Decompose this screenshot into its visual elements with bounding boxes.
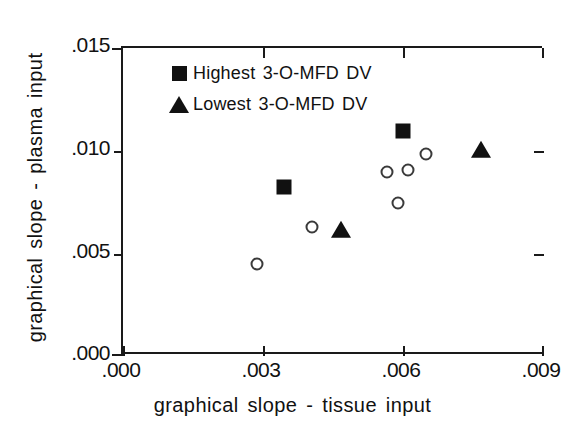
y-tick-right-005 — [534, 254, 544, 256]
y-tick-right-010 — [534, 151, 544, 153]
filled-triangle-icon — [165, 96, 193, 113]
x-tick-003 — [263, 346, 265, 356]
y-tick-005 — [114, 254, 123, 256]
x-tick-label-009: .009 — [501, 358, 581, 382]
x-tick-006 — [403, 346, 405, 356]
x-tick-label-003: .003 — [221, 358, 301, 382]
x-tick-top-009 — [542, 48, 544, 58]
data-point-circle — [250, 258, 263, 271]
data-point-circle — [381, 166, 394, 179]
caption-strip — [0, 432, 585, 445]
legend: Highest 3-O-MFD DV Lowest 3-O-MFD DV — [165, 60, 372, 122]
y-tick-015 — [112, 48, 123, 50]
x-tick-009 — [542, 346, 544, 356]
x-tick-label-006: .006 — [361, 358, 441, 382]
y-tick-label-010: .010 — [0, 136, 110, 160]
x-tick-top-006 — [403, 48, 405, 58]
x-tick-000 — [123, 346, 125, 356]
filled-square-icon — [165, 66, 193, 81]
data-point-circle — [392, 196, 405, 209]
legend-item-lowest: Lowest 3-O-MFD DV — [165, 91, 372, 117]
data-point-circle — [420, 148, 433, 161]
scatter-plot-figure: .015 .010 .005 .000 .000 .003 .006 .009 … — [0, 0, 585, 445]
legend-label-highest: Highest 3-O-MFD DV — [193, 63, 372, 84]
data-point-triangle — [471, 141, 491, 158]
plot-area: Highest 3-O-MFD DV Lowest 3-O-MFD DV — [121, 46, 542, 354]
y-tick-label-015: .015 — [0, 33, 110, 57]
x-tick-top-003 — [263, 48, 265, 58]
y-axis-title: graphical slope - plasma input — [24, 18, 47, 378]
data-point-square — [395, 123, 410, 138]
data-point-square — [277, 179, 292, 194]
y-tick-010 — [114, 151, 123, 153]
legend-item-highest: Highest 3-O-MFD DV — [165, 60, 372, 86]
y-tick-000 — [112, 354, 123, 356]
x-tick-label-000: .000 — [81, 358, 161, 382]
data-point-triangle — [331, 221, 351, 238]
data-point-circle — [306, 220, 319, 233]
data-point-circle — [402, 164, 415, 177]
x-axis-title: graphical slope - tissue input — [0, 394, 585, 417]
y-tick-label-005: .005 — [0, 239, 110, 263]
legend-label-lowest: Lowest 3-O-MFD DV — [193, 94, 367, 115]
